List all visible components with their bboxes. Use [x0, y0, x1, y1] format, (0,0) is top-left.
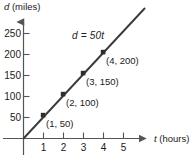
x-axis-title: t (hours): [154, 133, 189, 144]
point-label-1-50: (1, 50): [46, 118, 73, 129]
y-axis-title: d (miles): [4, 1, 40, 12]
point-label-3-150: (3, 150): [86, 76, 119, 87]
y-tick-label-50: 50: [0, 112, 21, 123]
equation-text: d = 50t: [72, 30, 104, 41]
x-tick-label-4: 4: [98, 142, 110, 153]
y-tick-label-200: 200: [0, 49, 21, 60]
point-label-2-100: (2, 100): [66, 97, 99, 108]
x-axis-ticks: [44, 133, 124, 139]
y-tick-label-150: 150: [0, 70, 21, 81]
coordinate-graph-figure: d (miles) t (hours) 250 200 150 100 50 1…: [0, 0, 193, 163]
y-axis-ticks: [24, 34, 30, 118]
x-tick-label-2: 2: [58, 142, 70, 153]
x-axis-variable: t: [154, 133, 157, 144]
y-tick-label-100: 100: [0, 91, 21, 102]
y-axis-unit: (miles): [12, 1, 41, 12]
x-axis-unit: (hours): [159, 133, 189, 144]
x-tick-label-3: 3: [78, 142, 90, 153]
y-tick-label-250: 250: [0, 28, 21, 39]
x-tick-label-5: 5: [118, 142, 130, 153]
equation-annotation: d = 50t: [72, 30, 104, 41]
point-label-4-200: (4, 200): [106, 55, 139, 66]
x-tick-label-1: 1: [38, 142, 50, 153]
y-axis-variable: d: [4, 1, 9, 12]
